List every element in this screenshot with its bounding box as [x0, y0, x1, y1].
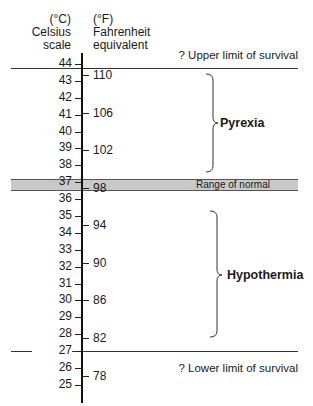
fahrenheit-tick	[83, 263, 89, 264]
scale-axis	[81, 53, 83, 403]
fahrenheit-tick	[83, 376, 89, 377]
celsius-tick-label: 42	[32, 91, 72, 103]
celsius-tick-label: 43	[32, 74, 72, 86]
celsius-tick	[75, 98, 81, 99]
celsius-tick	[75, 165, 81, 166]
celsius-header: (°C) Celsius scale	[11, 13, 71, 52]
fahrenheit-tick	[83, 113, 89, 114]
celsius-tick-label: 38	[32, 158, 72, 170]
celsius-title-line2: scale	[11, 39, 71, 52]
fahrenheit-tick	[83, 150, 89, 151]
celsius-tick	[75, 317, 81, 318]
hypothermia-label: Hypothermia	[227, 268, 303, 282]
celsius-tick	[75, 199, 81, 200]
celsius-tick	[75, 132, 81, 133]
celsius-tick-label: 26	[32, 361, 72, 373]
celsius-tick-label: 30	[32, 293, 72, 305]
celsius-tick	[75, 300, 81, 301]
fahrenheit-title-line2: equivalent	[93, 39, 150, 52]
celsius-tick-label: 39	[32, 141, 72, 153]
celsius-tick	[75, 81, 81, 82]
celsius-tick	[75, 250, 81, 251]
fahrenheit-tick-label: 82	[93, 332, 106, 344]
celsius-tick	[75, 216, 81, 217]
celsius-tick-label: 32	[32, 260, 72, 272]
fahrenheit-tick	[83, 75, 89, 76]
pyrexia-label: Pyrexia	[220, 116, 264, 130]
celsius-tick-label: 33	[32, 243, 72, 255]
celsius-tick-label: 28	[32, 327, 72, 339]
celsius-tick-label: 44	[32, 57, 72, 69]
fahrenheit-tick	[83, 188, 89, 189]
fahrenheit-header: (°F) Fahrenheit equivalent	[93, 13, 150, 52]
lower-limit-label: ? Lower limit of survival	[178, 362, 298, 374]
fahrenheit-tick-label: 102	[93, 144, 113, 156]
normal-range-label: Range of normal	[196, 179, 270, 190]
hypothermia-brace-icon	[210, 211, 224, 341]
fahrenheit-tick-label: 110	[93, 69, 112, 81]
celsius-tick	[75, 182, 81, 183]
celsius-tick	[75, 334, 81, 335]
celsius-tick	[75, 148, 81, 149]
celsius-tick-label: 36	[32, 192, 72, 204]
fahrenheit-tick-label: 106	[93, 107, 113, 119]
fahrenheit-tick	[83, 225, 89, 226]
celsius-tick-label: 31	[32, 277, 72, 289]
celsius-tick-label: 40	[32, 125, 72, 137]
celsius-tick-label: 37	[32, 175, 72, 187]
celsius-tick	[75, 115, 81, 116]
celsius-tick-label: 34	[32, 226, 72, 238]
celsius-tick	[75, 267, 81, 268]
celsius-tick	[75, 233, 81, 234]
celsius-tick-label: 29	[32, 310, 72, 322]
celsius-tick-label: 25	[32, 378, 72, 390]
fahrenheit-tick-label: 94	[93, 219, 106, 231]
fahrenheit-tick-label: 78	[93, 370, 106, 382]
celsius-tick	[75, 351, 81, 352]
fahrenheit-tick	[83, 300, 89, 301]
celsius-tick	[75, 284, 81, 285]
celsius-tick	[75, 368, 81, 369]
celsius-tick-label: 35	[32, 209, 72, 221]
fahrenheit-tick-label: 98	[93, 182, 106, 194]
celsius-tick-label: 27	[32, 344, 72, 356]
pyrexia-brace-icon	[206, 74, 220, 174]
fahrenheit-tick-label: 90	[93, 257, 106, 269]
fahrenheit-tick-label: 86	[93, 294, 106, 306]
celsius-tick	[75, 385, 81, 386]
fahrenheit-tick	[83, 338, 89, 339]
upper-limit-label: ? Upper limit of survival	[178, 49, 298, 61]
celsius-tick	[75, 64, 81, 65]
celsius-tick-label: 41	[32, 108, 72, 120]
